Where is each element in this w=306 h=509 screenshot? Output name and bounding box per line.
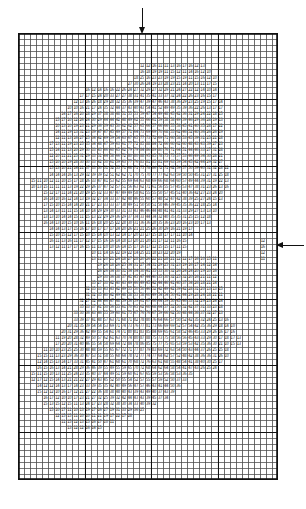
figure-root: 1212161111131617161213161819191115121114… <box>0 0 306 509</box>
arrow-shaft <box>282 245 304 246</box>
downward-load-arrow <box>137 8 149 35</box>
mesh-grid: 1212161111131617161213161819191115121114… <box>18 33 278 480</box>
leftward-load-arrow <box>276 240 304 252</box>
grid-lines-canvas <box>18 33 278 480</box>
arrow-shaft <box>142 8 143 29</box>
